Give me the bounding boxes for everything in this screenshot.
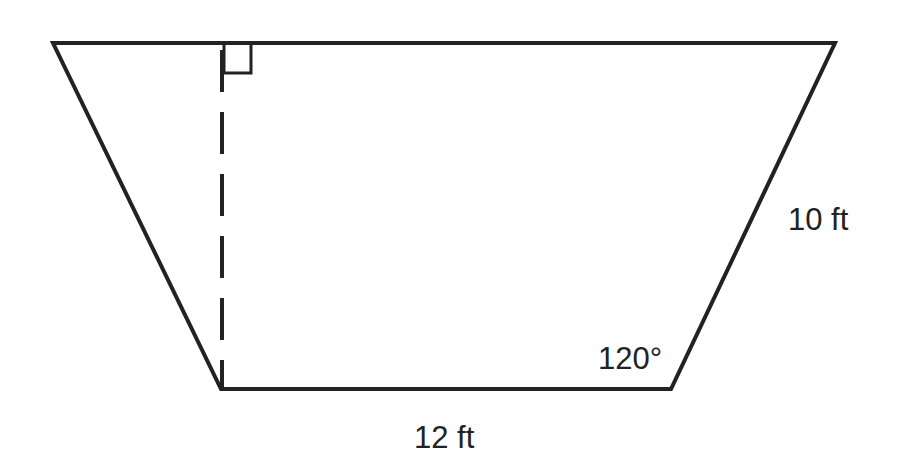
slant-side-label: 10 ft xyxy=(788,202,849,237)
angle-label: 120° xyxy=(598,341,662,376)
trapezoid-shape xyxy=(53,43,835,389)
trapezoid-diagram: 10 ft 120° 12 ft xyxy=(0,0,901,472)
bottom-base-label: 12 ft xyxy=(414,420,475,455)
right-angle-marker xyxy=(224,43,251,73)
